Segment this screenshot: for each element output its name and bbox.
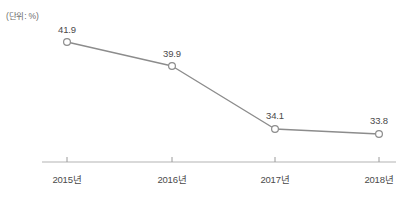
data-point-value-label: 34.1 (266, 110, 284, 121)
data-series-line (67, 42, 379, 134)
data-point-value-label: 33.8 (370, 115, 388, 126)
x-axis-tick-label: 2018년 (364, 172, 393, 186)
line-chart-figure: (단위: %) 41.9 39.9 34.1 33.8 2015년 2016년 … (0, 0, 417, 197)
x-axis-tick-label: 2015년 (52, 172, 81, 186)
data-point-value-label: 41.9 (58, 24, 76, 35)
data-point-marker (272, 126, 279, 133)
data-point-markers (64, 39, 383, 138)
data-point-marker (169, 63, 176, 70)
x-axis-ticks (67, 157, 379, 162)
data-point-marker (376, 131, 383, 138)
x-axis-tick-label: 2017년 (260, 172, 289, 186)
data-point-value-label: 39.9 (163, 48, 181, 59)
x-axis-tick-label: 2016년 (157, 172, 186, 186)
data-point-marker (64, 39, 71, 46)
